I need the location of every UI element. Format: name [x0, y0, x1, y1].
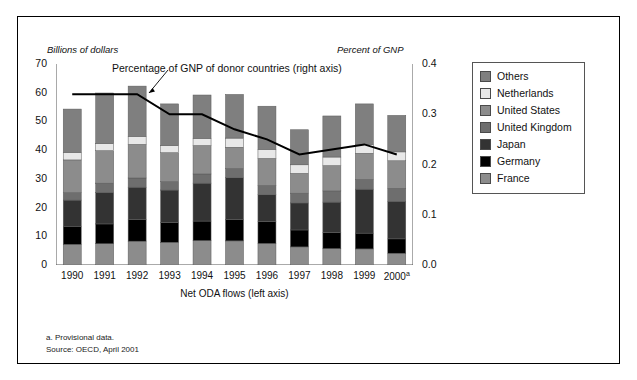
bar-segment — [193, 138, 211, 145]
bar-segment — [96, 151, 114, 183]
bar-group — [355, 104, 373, 265]
bar-segment — [388, 253, 406, 265]
legend-swatch — [480, 139, 491, 150]
bar-segment — [63, 244, 81, 265]
legend-item-label: United Kingdom — [497, 122, 572, 133]
bar-segment — [290, 230, 308, 247]
bar-segment — [63, 109, 81, 152]
legend-item[interactable]: Netherlands — [480, 87, 578, 100]
right-axis-tick-label: 0.3 — [422, 107, 452, 119]
bar-segment — [193, 221, 211, 241]
bar-segment — [388, 188, 406, 201]
bar-group — [193, 95, 211, 265]
bar-segment — [128, 178, 146, 187]
bar-segment — [128, 144, 146, 178]
x-axis-tick-label: 2000a — [380, 270, 414, 282]
bar-segment — [258, 195, 276, 222]
bar-segment — [63, 160, 81, 193]
bar-segment — [323, 249, 341, 265]
bar-segment — [388, 161, 406, 189]
bar-group — [258, 106, 276, 265]
legend-item[interactable]: United States — [480, 104, 578, 117]
annotation-arrowhead — [149, 88, 155, 93]
bar-segment — [96, 144, 114, 151]
bar-segment — [128, 241, 146, 265]
bar-segment — [355, 249, 373, 265]
chart-svg — [56, 64, 413, 265]
bar-segment — [323, 166, 341, 191]
right-axis-tick-label: 0.4 — [422, 57, 452, 69]
bar-segment — [323, 202, 341, 232]
bar-segment — [63, 226, 81, 244]
left-axis-tick-label: 10 — [23, 229, 47, 241]
bar-group — [161, 104, 179, 265]
x-axis-label: Net ODA flows (left axis) — [56, 288, 413, 299]
bar-segment — [63, 152, 81, 159]
x-axis-tick-label: 1997 — [282, 270, 316, 281]
plot-area — [56, 64, 413, 265]
bar-segment — [193, 183, 211, 221]
bar-segment — [161, 223, 179, 243]
footnote-source: Source: OECD, April 2001 — [46, 345, 139, 354]
bar-segment — [96, 183, 114, 192]
bar-segment — [193, 174, 211, 183]
bar-segment — [290, 193, 308, 203]
bar-segment — [323, 191, 341, 202]
legend-item[interactable]: Japan — [480, 138, 578, 151]
x-axis-tick-label: 1994 — [185, 270, 219, 281]
bar-segment — [388, 239, 406, 253]
legend-item[interactable]: United Kingdom — [480, 121, 578, 134]
bar-segment — [128, 219, 146, 241]
x-axis-tick-label: 1992 — [120, 270, 154, 281]
bar-segment — [161, 182, 179, 190]
bar-segment — [258, 222, 276, 244]
left-axis-tick-label: 20 — [23, 201, 47, 213]
bar-segment — [161, 146, 179, 153]
legend-item-label: United States — [497, 105, 560, 116]
bar-segment — [96, 224, 114, 244]
bar-segment — [63, 200, 81, 226]
figure-container: Billions of dollars Percent of GNP Perce… — [0, 0, 637, 380]
bar-group — [388, 115, 406, 265]
bar-segment — [290, 247, 308, 265]
bar-segment — [355, 179, 373, 189]
bar-segment — [355, 233, 373, 249]
bar-segment — [355, 189, 373, 233]
legend-item[interactable]: Germany — [480, 155, 578, 168]
legend-box: OthersNetherlandsUnited StatesUnited Kin… — [472, 62, 585, 194]
bar-segment — [323, 233, 341, 249]
x-axis-tick-label: 1995 — [218, 270, 252, 281]
legend-item-label: Japan — [497, 139, 526, 150]
x-axis-tick-label: 1990 — [55, 270, 89, 281]
bar-segment — [290, 173, 308, 193]
x-axis-tick-label: 1998 — [315, 270, 349, 281]
footnote-provisional: a. Provisional data. — [46, 333, 114, 342]
bar-segment — [63, 193, 81, 200]
legend-item-label: France — [497, 173, 530, 184]
bar-group — [323, 116, 341, 265]
bar-group — [96, 93, 114, 265]
bar-segment — [355, 104, 373, 144]
legend-swatch — [480, 173, 491, 184]
right-axis-tick-label: 0.0 — [422, 258, 452, 270]
legend-item[interactable]: Others — [480, 70, 578, 83]
bar-segment — [388, 201, 406, 239]
bar-segment — [290, 165, 308, 174]
left-axis-tick-label: 40 — [23, 143, 47, 155]
legend-item-label: Others — [497, 71, 529, 82]
bar-segment — [96, 192, 114, 224]
legend-item-label: Germany — [497, 156, 540, 167]
bar-group — [63, 109, 81, 265]
legend-item[interactable]: France — [480, 172, 578, 185]
bar-segment — [258, 158, 276, 185]
bar-segment — [290, 203, 308, 230]
bar-segment — [128, 187, 146, 219]
x-axis-tick-label: 1999 — [347, 270, 381, 281]
bar-segment — [193, 241, 211, 265]
bar-segment — [128, 136, 146, 144]
right-axis-tick-label: 0.2 — [422, 158, 452, 170]
left-axis-title: Billions of dollars — [47, 44, 118, 55]
right-axis-title: Percent of GNP — [337, 44, 404, 55]
left-axis-tick-label: 0 — [23, 258, 47, 270]
legend-swatch — [480, 156, 491, 167]
